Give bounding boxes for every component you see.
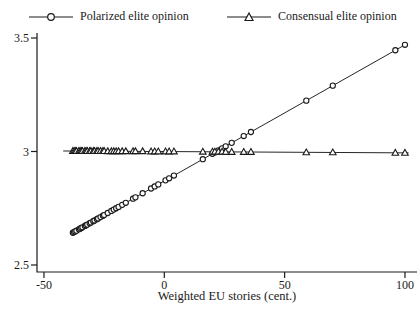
elite-opinion-chart: Polarized elite opinion Consensual elite… xyxy=(0,0,420,315)
y-tick-label: 3.5 xyxy=(14,31,29,45)
chart-canvas: 3.532.5-50050100 xyxy=(0,0,420,315)
x-axis-label: Weighted EU stories (cent.) xyxy=(37,289,417,304)
y-tick-label: 3 xyxy=(23,145,29,159)
y-tick-label: 2.5 xyxy=(14,258,29,272)
